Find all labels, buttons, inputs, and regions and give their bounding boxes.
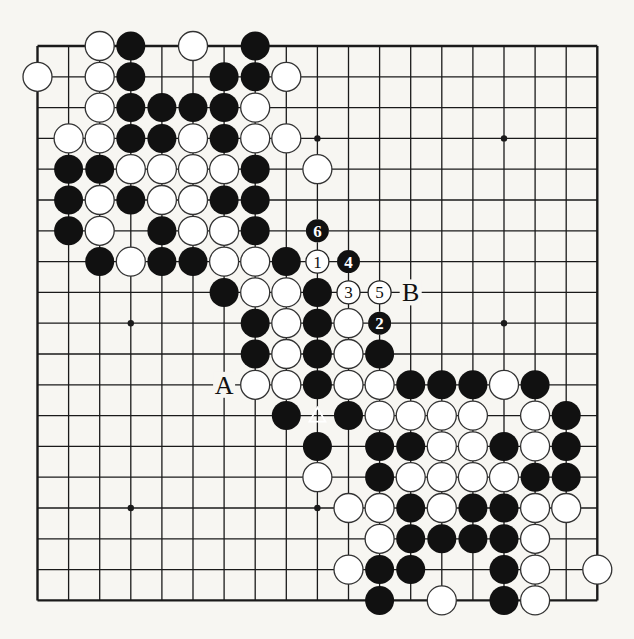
black-stone [490, 555, 519, 584]
white-stone [303, 155, 332, 184]
white-stone [365, 524, 394, 553]
white-stone [365, 370, 394, 399]
white-stone [427, 494, 456, 523]
white-stone [241, 278, 270, 307]
white-stone [85, 62, 114, 91]
black-stone [147, 124, 176, 153]
white-stone [54, 124, 83, 153]
black-stone [396, 555, 425, 584]
star-point [501, 320, 507, 326]
black-stone [490, 494, 519, 523]
move-number-label: 6 [313, 222, 322, 241]
white-stone [427, 432, 456, 461]
black-stone [241, 340, 270, 369]
black-stone [521, 370, 550, 399]
black-stone [365, 463, 394, 492]
black-stone [85, 155, 114, 184]
white-stone [521, 555, 550, 584]
move-number-label: 3 [344, 283, 353, 302]
black-stone [303, 278, 332, 307]
black-stone [54, 186, 83, 215]
white-stone [458, 463, 487, 492]
white-stone [179, 124, 208, 153]
move-number-label: 2 [375, 314, 384, 333]
black-stone [396, 370, 425, 399]
black-stone [210, 278, 239, 307]
black-stone [147, 216, 176, 245]
black-stone [458, 494, 487, 523]
star-point [314, 135, 320, 141]
black-stone [147, 247, 176, 276]
point-label-a: A [215, 371, 234, 400]
white-stone [427, 463, 456, 492]
white-stone [23, 62, 52, 91]
black-stone [241, 216, 270, 245]
white-stone [85, 186, 114, 215]
black-stone [147, 93, 176, 122]
star-point [128, 320, 134, 326]
white-stone [552, 494, 581, 523]
white-stone [272, 124, 301, 153]
white-stone [241, 370, 270, 399]
black-stone [396, 432, 425, 461]
move-number-label: 4 [344, 253, 353, 272]
black-stone [552, 432, 581, 461]
white-stone [521, 586, 550, 615]
white-stone [521, 524, 550, 553]
black-stone [490, 524, 519, 553]
black-stone [552, 463, 581, 492]
white-stone [241, 93, 270, 122]
black-stone [241, 309, 270, 338]
black-stone [458, 370, 487, 399]
black-stone [116, 93, 145, 122]
black-stone [272, 401, 301, 430]
black-stone [116, 62, 145, 91]
white-stone [427, 401, 456, 430]
white-stone [272, 370, 301, 399]
black-stone [179, 247, 208, 276]
white-stone [147, 186, 176, 215]
white-stone [147, 155, 176, 184]
black-stone [490, 586, 519, 615]
white-stone [490, 370, 519, 399]
white-stone [85, 32, 114, 61]
point-label-b: B [402, 278, 419, 307]
black-stone [552, 401, 581, 430]
black-stone [179, 93, 208, 122]
star-point [314, 505, 320, 511]
white-stone [179, 216, 208, 245]
black-stone [272, 247, 301, 276]
white-stone [490, 463, 519, 492]
black-stone [365, 432, 394, 461]
white-stone [210, 155, 239, 184]
white-stone [241, 124, 270, 153]
white-stone [85, 93, 114, 122]
black-stone [365, 340, 394, 369]
black-stone [54, 216, 83, 245]
black-stone [241, 186, 270, 215]
white-stone [458, 401, 487, 430]
black-stone [427, 524, 456, 553]
white-stone [334, 555, 363, 584]
black-stone [210, 124, 239, 153]
white-stone [85, 216, 114, 245]
white-stone [427, 586, 456, 615]
star-point [128, 505, 134, 511]
white-stone [458, 432, 487, 461]
black-stone [365, 586, 394, 615]
white-stone [272, 340, 301, 369]
white-stone [303, 463, 332, 492]
white-stone [521, 401, 550, 430]
go-board-diagram: 123456 AB [0, 0, 634, 639]
black-stone [241, 62, 270, 91]
black-stone [303, 309, 332, 338]
black-stone [396, 494, 425, 523]
white-stone [85, 124, 114, 153]
white-stone [334, 340, 363, 369]
white-stone [396, 401, 425, 430]
black-stone [116, 124, 145, 153]
black-stone [490, 432, 519, 461]
white-stone [396, 463, 425, 492]
black-stone [210, 186, 239, 215]
white-stone [272, 278, 301, 307]
